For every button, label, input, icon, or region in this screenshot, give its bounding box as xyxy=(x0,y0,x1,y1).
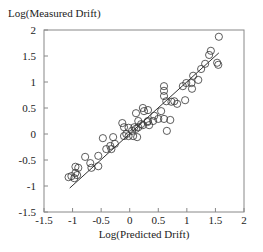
data-points xyxy=(65,33,222,182)
y-tick-label: 0 xyxy=(31,128,37,140)
y-tick-label: 1.5 xyxy=(22,50,36,62)
y-tick-label: -1 xyxy=(27,180,36,192)
data-point xyxy=(132,110,139,117)
data-point xyxy=(132,125,139,132)
x-tick-label: -1.5 xyxy=(35,214,53,226)
data-point xyxy=(207,47,214,54)
data-point xyxy=(163,127,170,134)
data-point xyxy=(206,51,213,58)
data-point xyxy=(215,33,222,40)
y-tick-label: -0.5 xyxy=(19,154,37,166)
y-tick-label: -1.5 xyxy=(19,206,37,218)
x-tick-label: 0 xyxy=(127,214,133,226)
data-point xyxy=(158,108,165,115)
x-tick-label: -1 xyxy=(68,214,77,226)
data-point xyxy=(110,134,117,141)
data-point xyxy=(119,119,126,126)
data-point xyxy=(182,97,189,104)
data-point xyxy=(82,153,89,160)
data-point xyxy=(215,61,222,68)
x-ticks: -1.5-1-0.500.511.52 xyxy=(35,208,246,226)
data-point xyxy=(195,76,202,83)
x-tick-label: 1 xyxy=(184,214,190,226)
data-point xyxy=(87,160,94,167)
data-point xyxy=(95,163,102,170)
y-tick-label: 0.5 xyxy=(22,102,36,114)
data-point xyxy=(99,135,106,142)
data-point xyxy=(95,152,102,159)
x-tick-label: 0.5 xyxy=(151,214,165,226)
y-tick-label: 2 xyxy=(31,24,37,36)
x-tick-label: 2 xyxy=(241,214,247,226)
y-axis-label: Log(Measured Drift) xyxy=(8,7,101,20)
scatter-chart: Log(Measured Drift) Log(Predicted Drift)… xyxy=(0,0,263,252)
data-point xyxy=(134,134,141,141)
x-tick-label: 1.5 xyxy=(209,214,223,226)
data-point xyxy=(202,60,209,67)
data-point xyxy=(111,140,118,147)
x-axis-label: Log(Predicted Drift) xyxy=(99,228,190,241)
y-tick-label: 1 xyxy=(31,76,37,88)
x-tick-label: -0.5 xyxy=(92,214,110,226)
